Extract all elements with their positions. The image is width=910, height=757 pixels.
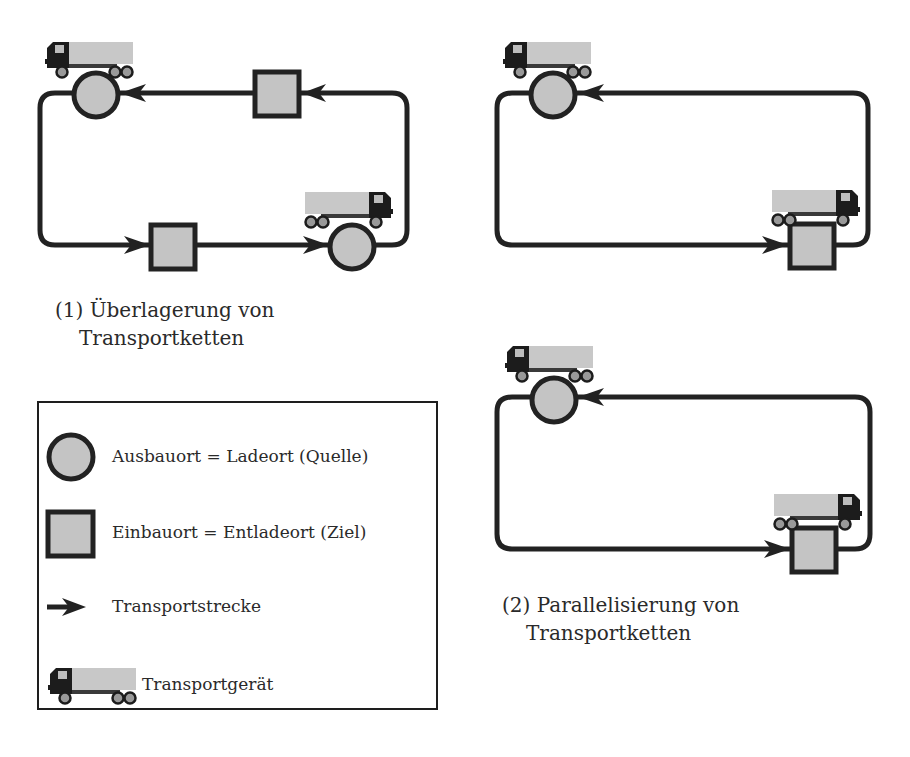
subfigure-2a-parallel [497,42,868,268]
subfigure-2b-parallel [497,346,870,572]
target-square [792,528,836,572]
source-circle [330,225,374,269]
legend-label-route: Transportstrecke [112,596,261,616]
subfigure-1-overlay [40,42,407,269]
source-circle [74,73,118,117]
target-square [790,224,834,268]
source-circle [532,378,576,422]
caption-line-2: Transportketten [502,619,739,647]
truck-icon [772,190,860,226]
legend-label-source: Ausbauort = Ladeort (Quelle) [112,446,368,466]
caption-line-2: Transportketten [55,324,274,352]
caption-line-1: (1) Überlagerung von [55,298,274,322]
caption-subfigure-1: (1) Überlagerung von Transportketten [55,296,274,352]
legend-label-target: Einbauort = Entladeort (Ziel) [112,522,366,542]
target-square [151,225,195,269]
truck-icon [305,192,393,228]
caption-subfigure-2: (2) Parallelisierung von Transportketten [502,591,739,647]
truck-icon [774,494,862,530]
caption-line-1: (2) Parallelisierung von [502,593,739,617]
source-circle [531,73,575,117]
legend-label-vehicle: Transportgerät [142,674,273,694]
target-square [255,72,299,116]
